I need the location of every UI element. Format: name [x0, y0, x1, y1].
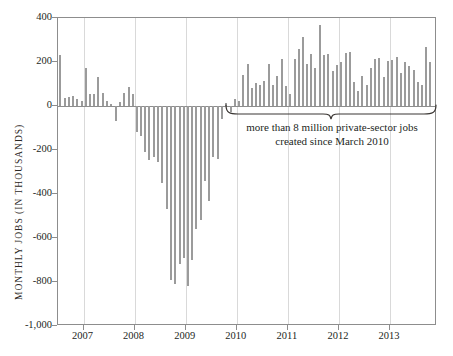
x-tick-mark: [185, 325, 186, 330]
chart-bar: [353, 82, 355, 106]
chart-bar: [161, 106, 163, 183]
chart-bar: [140, 106, 142, 136]
chart-bar: [404, 62, 406, 106]
x-tick-label: 2012: [318, 330, 358, 341]
chart-bar: [68, 97, 70, 106]
chart-bar: [310, 54, 312, 106]
chart-bar: [349, 52, 351, 106]
chart-bar: [413, 70, 415, 106]
chart-bar: [132, 94, 134, 106]
chart-bar: [242, 75, 244, 106]
chart-bar: [191, 106, 193, 260]
chart-bar: [383, 77, 385, 106]
x-tick-mark: [338, 325, 339, 330]
chart-bar: [421, 85, 423, 106]
chart-bar: [195, 106, 197, 229]
vertical-gridline: [84, 18, 85, 324]
chart-bar: [396, 57, 398, 107]
chart-bar: [157, 106, 159, 162]
chart-bar: [217, 106, 219, 159]
x-tick-label: 2008: [114, 330, 154, 341]
annotation-line-1: more than 8 million private-sector jobs: [227, 121, 437, 135]
chart-bar: [374, 59, 376, 106]
chart-bar: [370, 68, 372, 107]
plot-area: [57, 17, 436, 325]
x-tick-label: 2010: [216, 330, 256, 341]
chart-bar: [153, 106, 155, 157]
chart-bar: [391, 60, 393, 106]
x-tick-mark: [236, 325, 237, 330]
chart-bar: [144, 106, 146, 152]
y-tick-mark: [52, 325, 57, 326]
x-tick-mark: [134, 325, 135, 330]
plot-inner: [58, 18, 435, 324]
chart-bar: [115, 106, 117, 121]
chart-bar: [255, 83, 257, 106]
chart-bar: [174, 106, 176, 284]
y-tick-label: 200: [36, 56, 52, 66]
chart-bar: [314, 68, 316, 107]
chart-bar: [285, 86, 287, 106]
chart-bar: [183, 106, 185, 258]
chart-bar: [378, 58, 380, 106]
chart-bar: [366, 85, 368, 106]
x-tick-mark: [83, 325, 84, 330]
y-tick-label: -400: [33, 188, 52, 198]
y-tick-label: -600: [33, 232, 52, 242]
annotation-line-2: created since March 2010: [227, 135, 437, 149]
chart-bar: [302, 37, 304, 106]
chart-bar: [221, 106, 223, 119]
chart-bar: [268, 64, 270, 106]
y-axis-ticks: 4002000-200-400-600-800-1,000: [0, 0, 52, 356]
chart-bar: [119, 102, 121, 106]
vertical-gridline: [237, 18, 238, 324]
x-tick-label: 2007: [63, 330, 103, 341]
chart-bar: [332, 71, 334, 106]
chart-bar: [200, 106, 202, 220]
chart-bar: [136, 106, 138, 132]
chart-bar: [400, 73, 402, 106]
chart-bar: [187, 106, 189, 286]
chart-bar: [148, 106, 150, 160]
chart-bar: [298, 49, 300, 106]
chart-bar: [85, 68, 87, 107]
chart-bar: [306, 64, 308, 106]
chart-bar: [166, 106, 168, 209]
chart-bar: [429, 62, 431, 106]
chart-bar: [263, 81, 265, 106]
chart-bar: [179, 106, 181, 264]
chart-bar: [387, 61, 389, 106]
chart-bar: [170, 106, 172, 280]
chart-bar: [259, 85, 261, 106]
chart-bar: [425, 47, 427, 106]
chart-bar: [336, 65, 338, 106]
vertical-gridline: [288, 18, 289, 324]
x-tick-mark: [287, 325, 288, 330]
x-tick-label: 2011: [267, 330, 307, 341]
chart-bar: [72, 96, 74, 106]
chart-bar: [93, 94, 95, 106]
chart-bar: [102, 93, 104, 106]
x-tick-label: 2009: [165, 330, 205, 341]
chart-bar: [76, 99, 78, 106]
jobs-bar-chart-figure: MONTHLY JOBS (IN THOUSANDS) 4002000-200-…: [0, 0, 453, 356]
y-tick-label: -1,000: [25, 320, 52, 330]
chart-bar: [64, 98, 66, 106]
chart-bar: [204, 106, 206, 181]
chart-bar: [408, 66, 410, 106]
chart-bar: [89, 94, 91, 106]
y-tick-label: -800: [33, 276, 52, 286]
chart-bar: [128, 87, 130, 106]
chart-bar: [294, 59, 296, 106]
chart-bar: [417, 82, 419, 106]
chart-bar: [106, 101, 108, 107]
chart-bar: [281, 59, 283, 106]
chart-bar: [208, 106, 210, 201]
y-tick-label: 400: [36, 12, 52, 22]
chart-bar: [81, 101, 83, 107]
chart-bar: [59, 55, 61, 106]
chart-bar: [123, 93, 125, 106]
chart-bar: [323, 55, 325, 106]
y-tick-label: -200: [33, 144, 52, 154]
vertical-gridline: [135, 18, 136, 324]
